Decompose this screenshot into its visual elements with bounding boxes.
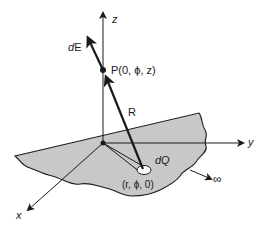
field-vector-label: dE bbox=[68, 42, 81, 53]
field-vector-dE bbox=[88, 38, 103, 70]
charge-position-label: (r, ϕ, 0) bbox=[122, 180, 154, 190]
y-axis-label: y bbox=[248, 137, 254, 148]
charge-element-dQ bbox=[137, 166, 151, 175]
point-P-label: P(0, ϕ, z) bbox=[111, 65, 156, 76]
infinity-label: ∞ bbox=[213, 173, 222, 185]
x-axis-label: x bbox=[16, 210, 22, 221]
charge-element-label: dQ bbox=[155, 155, 170, 166]
point-P bbox=[100, 67, 106, 73]
distance-label: R bbox=[128, 107, 136, 118]
charged-surface bbox=[15, 113, 206, 196]
origin-point bbox=[101, 141, 106, 146]
infinity-arrow bbox=[190, 170, 211, 179]
diagram-canvas: z y x dE P(0, ϕ, z) R dQ (r, ϕ, 0) ∞ bbox=[0, 0, 265, 229]
z-axis-label: z bbox=[112, 14, 118, 25]
